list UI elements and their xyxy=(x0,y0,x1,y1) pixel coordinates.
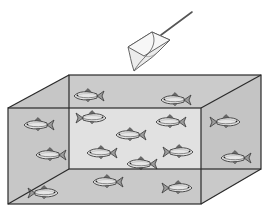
diagram-canvas xyxy=(0,0,269,212)
net-handle xyxy=(161,12,192,35)
fish-tank-diagram xyxy=(0,0,269,212)
fishing-net-icon xyxy=(128,12,192,71)
tank xyxy=(8,75,261,204)
